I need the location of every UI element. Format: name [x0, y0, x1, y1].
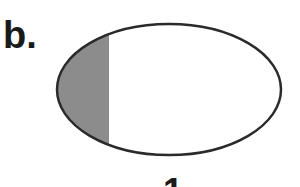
- ellipse-figure: [0, 0, 300, 187]
- panel-label: b.: [3, 13, 37, 57]
- bottom-label-partial: 1: [163, 172, 183, 187]
- figure-canvas: b. 1: [0, 0, 300, 187]
- shaded-segment: [57, 0, 109, 187]
